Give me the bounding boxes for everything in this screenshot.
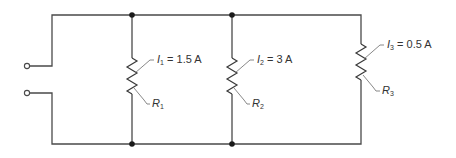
junction-node bbox=[129, 141, 135, 147]
junction-node bbox=[129, 12, 135, 18]
resistor-label-r3: R3 bbox=[382, 84, 394, 97]
resistor-r2 bbox=[227, 15, 254, 144]
current-label-i2: I2 = 3 A bbox=[257, 53, 292, 66]
resistor-label-r2: R2 bbox=[252, 97, 264, 110]
resistor-r1 bbox=[127, 15, 154, 144]
resistor-label-r1: R1 bbox=[152, 97, 164, 110]
junction-node bbox=[229, 12, 235, 18]
resistor-r3 bbox=[356, 44, 384, 102]
terminal-top bbox=[24, 63, 29, 68]
terminal-bottom bbox=[24, 90, 29, 95]
current-label-i1: I1 = 1.5 A bbox=[157, 53, 202, 66]
bottom-rail-wire bbox=[30, 93, 361, 144]
junction-node bbox=[229, 141, 235, 147]
circuit-diagram bbox=[0, 0, 456, 158]
current-label-i3: I3 = 0.5 A bbox=[387, 38, 432, 51]
